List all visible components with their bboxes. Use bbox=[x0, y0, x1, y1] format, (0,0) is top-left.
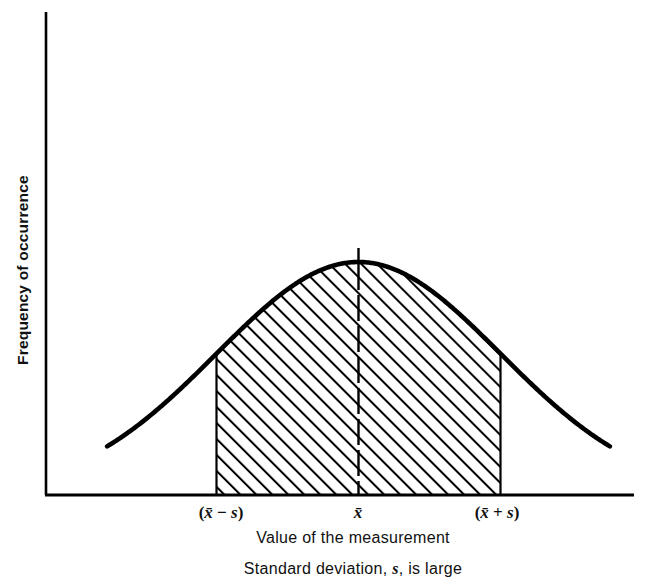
normal-distribution-figure: Frequency of occurrence (x̄ − s) x̄ (x̄ … bbox=[0, 0, 645, 586]
figure-caption: Standard deviation, s, is large bbox=[244, 560, 462, 577]
xtick-left-operator: − bbox=[213, 503, 231, 522]
chart-canvas: Frequency of occurrence (x̄ − s) x̄ (x̄ … bbox=[0, 0, 645, 586]
x-axis-label: Value of the measurement bbox=[256, 529, 450, 546]
xtick-right-xbar: x̄ bbox=[479, 503, 489, 522]
xtick-right-operator: + bbox=[489, 503, 507, 522]
xtick-right-close-paren: ) bbox=[514, 503, 520, 522]
xtick-left-xbar: x̄ bbox=[203, 503, 213, 522]
xtick-left-close-paren: ) bbox=[238, 503, 244, 522]
caption-lead: Standard deviation, bbox=[244, 560, 392, 577]
xtick-center-xbar: x̄ bbox=[353, 503, 363, 522]
xtick-label-minus-s: (x̄ − s) bbox=[199, 503, 244, 522]
xtick-label-plus-s: (x̄ + s) bbox=[475, 503, 520, 522]
y-axis-label: Frequency of occurrence bbox=[14, 175, 31, 365]
xtick-label-mean: x̄ bbox=[353, 503, 363, 522]
caption-symbol-s: s bbox=[391, 560, 399, 577]
caption-tail: , is large bbox=[399, 560, 462, 577]
